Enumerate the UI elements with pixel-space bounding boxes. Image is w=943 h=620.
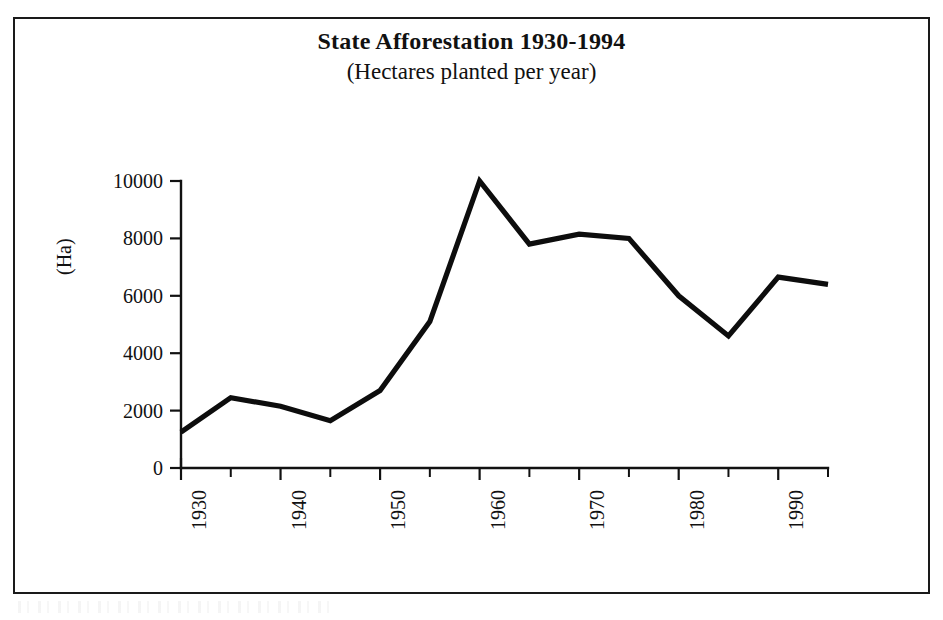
data-series-line	[181, 181, 828, 432]
x-tick-label: 1990	[786, 490, 806, 530]
y-tick-label: 0	[73, 458, 163, 478]
y-axis-title: (Ha)	[54, 238, 74, 275]
y-tick-label: 2000	[73, 401, 163, 421]
plot-area: 0200040006000800010000 19301940195019601…	[0, 0, 943, 620]
y-tick-label: 10000	[73, 171, 163, 191]
ticks-group	[170, 181, 828, 480]
y-tick-label: 6000	[73, 286, 163, 306]
y-tick-label: 4000	[73, 343, 163, 363]
y-tick-label: 8000	[73, 228, 163, 248]
x-tick-label: 1930	[189, 490, 209, 530]
scan-artifact	[18, 601, 338, 613]
x-tick-label: 1960	[488, 490, 508, 530]
x-tick-label: 1940	[289, 490, 309, 530]
axes-group	[181, 181, 828, 468]
x-tick-label: 1970	[587, 490, 607, 530]
x-tick-label: 1980	[687, 490, 707, 530]
x-tick-label: 1950	[388, 490, 408, 530]
